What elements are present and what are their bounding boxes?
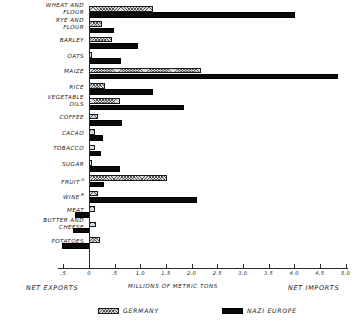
bar-nazi-europe-rice — [89, 89, 153, 95]
bar-nazi-europe-coffee — [89, 120, 122, 126]
axis-tick-label: .5 — [53, 270, 73, 276]
horizontal-bar-chart: WHEAT ANDFLOURRYE ANDFLOURBARLEYOATSMAIZ… — [0, 0, 360, 324]
legend-item-nazi-europe: NAZI EUROPE — [222, 307, 297, 314]
hatched-swatch-icon — [98, 308, 119, 314]
axis-tick — [243, 264, 244, 269]
value-axis-line — [58, 268, 348, 269]
value-axis-title: MILLIONS OF METRIC TONS — [128, 283, 218, 289]
axis-tick — [63, 264, 64, 269]
bar-nazi-europe-meat — [75, 212, 89, 218]
bar-germany-wine — [89, 191, 98, 197]
bar-germany-coffee — [89, 114, 98, 120]
bar-nazi-europe-butter-and-cheese — [73, 228, 89, 234]
bar-germany-butter-and-cheese — [89, 222, 96, 228]
axis-tick-label: 4.0 — [284, 270, 304, 276]
axis-tick-label: 3.5 — [259, 270, 279, 276]
bar-nazi-europe-maize — [89, 74, 338, 80]
plot-area — [0, 6, 360, 264]
bar-nazi-europe-oats — [89, 58, 121, 64]
axis-tick — [346, 264, 347, 269]
bar-germany-vegetable-oils — [89, 98, 120, 104]
chart-legend: GERMANY NAZI EUROPE — [0, 303, 360, 321]
bar-nazi-europe-wheat-and-flour — [89, 12, 295, 18]
bar-nazi-europe-rye-and-flour — [89, 28, 114, 34]
bar-nazi-europe-tobacco — [89, 151, 101, 157]
bar-germany-rye-and-flour — [89, 21, 102, 27]
bar-germany-maize — [89, 68, 201, 74]
axis-tick — [192, 264, 193, 269]
axis-tick-label: 1.0 — [130, 270, 150, 276]
axis-tick — [217, 264, 218, 269]
axis-tick — [140, 264, 141, 269]
axis-tick-label: 3.0 — [233, 270, 253, 276]
net-imports-caption: NET IMPORTS — [288, 284, 339, 292]
axis-tick-label: 4.5 — [310, 270, 330, 276]
bar-nazi-europe-barley — [89, 43, 138, 49]
bar-nazi-europe-fruit — [89, 182, 104, 188]
bar-germany-rice — [89, 83, 105, 89]
net-exports-caption: NET EXPORTS — [26, 284, 78, 292]
axis-tick — [294, 264, 295, 269]
axis-tick — [320, 264, 321, 269]
bar-germany-wheat-and-flour — [89, 6, 153, 12]
bar-germany-barley — [89, 37, 112, 43]
bar-germany-fruit — [89, 175, 167, 181]
axis-tick-label: 2.5 — [207, 270, 227, 276]
solid-black-swatch-icon — [222, 308, 243, 314]
axis-tick-label: 5.0 — [336, 270, 356, 276]
axis-tick-label: 2.0 — [182, 270, 202, 276]
axis-tick — [166, 264, 167, 269]
legend-label-nazi-europe: NAZI EUROPE — [247, 307, 297, 314]
bar-nazi-europe-potatoes — [62, 243, 89, 249]
zero-axis-line — [89, 6, 90, 268]
axis-tick — [89, 264, 90, 269]
axis-tick — [269, 264, 270, 269]
legend-label-germany: GERMANY — [123, 307, 159, 314]
bar-nazi-europe-vegetable-oils — [89, 105, 184, 111]
legend-item-germany: GERMANY — [98, 307, 159, 314]
bar-nazi-europe-wine — [89, 197, 197, 203]
axis-tick-label: 0 — [79, 270, 99, 276]
axis-tick-label: 1.5 — [156, 270, 176, 276]
bar-nazi-europe-sugar — [89, 166, 120, 172]
bar-germany-potatoes — [89, 237, 100, 243]
axis-tick — [115, 264, 116, 269]
bar-nazi-europe-cacao — [89, 135, 103, 141]
axis-tick-label: .5 — [105, 270, 125, 276]
